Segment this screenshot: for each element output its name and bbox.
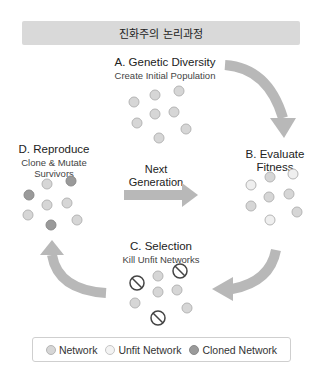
population-d (23, 176, 82, 230)
prohibited-icon (151, 311, 165, 325)
unfit-network-dot-icon (105, 345, 115, 355)
network-dot-icon (46, 345, 56, 355)
legend-item-network: Network (46, 344, 98, 356)
legend-item-unfit-network: Unfit Network (105, 344, 181, 356)
legend-label: Cloned Network (202, 344, 277, 356)
arrow-a-to-b-shaft (225, 65, 283, 118)
cloned-network-dot-icon (189, 345, 199, 355)
next-generation-arrow-shaft (124, 190, 184, 200)
arrow-b-to-c-head (212, 277, 233, 301)
population-b (246, 169, 302, 225)
arrow-c-to-d-head (40, 240, 64, 255)
legend-label: Network (59, 344, 98, 356)
prohibited-icon (130, 276, 144, 290)
legend-label: Unfit Network (118, 344, 181, 356)
next-generation-arrow-head (182, 183, 198, 207)
arrow-b-to-c-shaft (232, 250, 276, 289)
cycle-diagram (0, 0, 321, 387)
arrow-a-to-b-head (270, 118, 296, 138)
arrow-c-to-d-shaft (52, 255, 106, 293)
legend-item-cloned-network: Cloned Network (189, 344, 277, 356)
legend: Network Unfit Network Cloned Network (32, 337, 291, 362)
population-a (129, 86, 191, 143)
prohibited-icon (173, 264, 187, 278)
